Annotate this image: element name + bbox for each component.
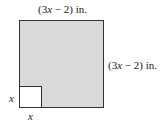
right-side-label: (3x − 2) in. <box>108 60 157 71</box>
small-square-bottom-label: x <box>28 111 33 122</box>
top-side-label: (3x − 2) in. <box>38 4 87 15</box>
small-square-side-label: x <box>9 93 14 104</box>
small-square-cutout <box>19 86 42 108</box>
